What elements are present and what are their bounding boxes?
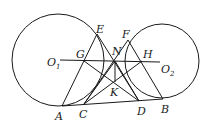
label-o2: O2: [161, 63, 175, 78]
label-k: K: [109, 86, 119, 99]
label-d: D: [136, 105, 146, 118]
label-n: N: [111, 45, 122, 58]
segment-ae: [62, 34, 97, 106]
point-labels: A C D B E F G H N K O1 O2: [47, 23, 175, 123]
label-g: G: [76, 48, 85, 61]
label-b: B: [160, 103, 169, 116]
geometry-diagram: A C D B E F G H N K O1 O2: [0, 0, 211, 126]
label-e: E: [95, 23, 104, 36]
label-c: C: [79, 108, 88, 121]
label-o1: O1: [47, 56, 61, 71]
segment-ab: [62, 99, 163, 106]
circle-o1: [12, 14, 104, 106]
segment-nd: [115, 61, 139, 101]
label-a: A: [54, 110, 63, 123]
label-f: F: [121, 28, 130, 41]
circles: [12, 14, 199, 106]
circle-o2: [125, 24, 199, 98]
label-h: H: [142, 48, 153, 61]
